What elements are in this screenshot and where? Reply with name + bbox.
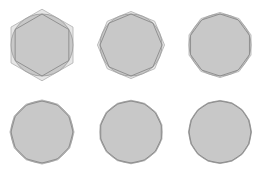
diagram-panel-5 xyxy=(100,100,162,164)
diagram-panel-2 xyxy=(97,11,164,78)
diagram-panel-6 xyxy=(188,100,251,163)
diagram-panel-4 xyxy=(10,100,74,164)
circle xyxy=(11,14,73,76)
polygon-approximation-diagram xyxy=(0,0,263,178)
circle xyxy=(189,14,251,76)
diagram-panel-1 xyxy=(11,9,73,81)
circle xyxy=(11,101,73,163)
diagram-panel-3 xyxy=(189,12,251,77)
